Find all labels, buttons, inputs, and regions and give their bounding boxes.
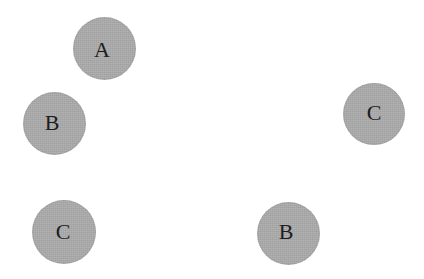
circle-node-a[interactable]: A [73, 17, 136, 80]
circle-node-c[interactable]: C [32, 200, 96, 264]
circle-node-b[interactable]: B [23, 92, 86, 155]
circle-node-label: C [56, 221, 71, 243]
circle-node-c[interactable]: C [343, 83, 405, 145]
circle-node-label: C [367, 102, 382, 124]
circle-node-label: B [279, 221, 294, 243]
circle-node-label: A [94, 39, 110, 61]
diagram-canvas: ABCCB [0, 0, 424, 279]
circle-node-b[interactable]: B [257, 202, 320, 265]
circle-node-label: B [45, 112, 60, 134]
